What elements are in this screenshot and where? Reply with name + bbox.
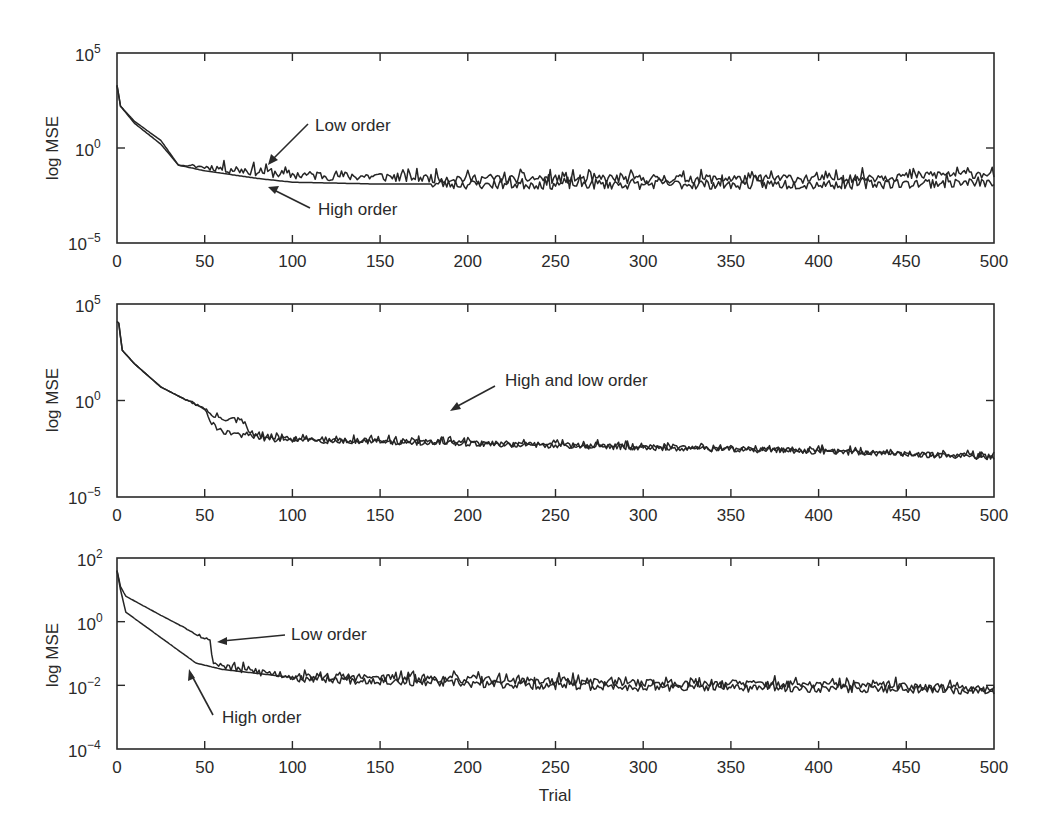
series-line-high-order (117, 321, 994, 459)
xtick-label: 450 (892, 506, 920, 525)
arrow-head-icon (450, 402, 461, 411)
panel-middle-series (117, 321, 994, 459)
arrow-low-order (270, 124, 308, 162)
xtick-label: 100 (278, 758, 306, 777)
series-line-low-order (117, 85, 994, 183)
xtick-label: 200 (454, 252, 482, 271)
panel-top: log MSE 105 100 10−5 0501001502002503003… (43, 42, 1008, 271)
annotation-high-order: High order (222, 708, 302, 727)
panel-middle-ylabel: log MSE (43, 368, 62, 432)
arrow-high-order (272, 189, 310, 208)
xtick-label: 250 (541, 758, 569, 777)
panel-middle-ytick-labels: 105 100 10−5 (68, 293, 101, 508)
series-line-low-order (117, 321, 994, 459)
figure: log MSE 105 100 10−5 0501001502002503003… (0, 0, 1052, 835)
panel-bottom: log MSE 102 100 10−2 10−4 05010015020025… (43, 547, 1008, 805)
xtick-label: 300 (629, 252, 657, 271)
annotation-high-and-low-order: High and low order (505, 371, 648, 390)
panel-middle-xtick-labels: 050100150200250300350400450500 (112, 506, 1008, 525)
xtick-label: 200 (454, 758, 482, 777)
xtick-label: 100 (278, 252, 306, 271)
xtick-label: 500 (980, 758, 1008, 777)
xtick-label: 250 (541, 252, 569, 271)
xtick-label: 250 (541, 506, 569, 525)
panel-middle: log MSE 105 100 10−5 0501001502002503003… (43, 293, 1008, 525)
panel-top-ticks (117, 53, 994, 243)
ytick-label: 100 (77, 611, 103, 634)
panel-middle-ticks (117, 304, 994, 497)
panel-top-frame (117, 53, 994, 243)
panel-top-xtick-labels: 050100150200250300350400450500 (112, 252, 1008, 271)
xtick-label: 300 (629, 506, 657, 525)
xtick-label: 0 (112, 252, 121, 271)
xtick-label: 500 (980, 252, 1008, 271)
panel-bottom-series (117, 571, 994, 694)
xtick-label: 150 (366, 758, 394, 777)
ytick-label: 100 (75, 137, 101, 160)
xtick-label: 400 (804, 252, 832, 271)
xtick-label: 450 (892, 758, 920, 777)
xtick-label: 500 (980, 506, 1008, 525)
ytick-label: 10−4 (68, 738, 101, 761)
xtick-label: 350 (717, 506, 745, 525)
panel-bottom-xlabel: Trial (539, 786, 571, 805)
xtick-label: 150 (366, 252, 394, 271)
xtick-label: 450 (892, 252, 920, 271)
xtick-label: 150 (366, 506, 394, 525)
panel-top-ytick-labels: 105 100 10−5 (68, 42, 101, 254)
annotation-high-order: High order (318, 200, 398, 219)
xtick-label: 100 (278, 506, 306, 525)
annotation-low-order: Low order (315, 116, 391, 135)
xtick-label: 200 (454, 506, 482, 525)
xtick-label: 50 (195, 252, 214, 271)
xtick-label: 50 (195, 506, 214, 525)
xtick-label: 350 (717, 252, 745, 271)
ytick-label: 105 (75, 293, 101, 316)
xtick-label: 0 (112, 506, 121, 525)
ytick-label: 10−5 (68, 231, 101, 254)
panel-bottom-xtick-labels: 050100150200250300350400450500 (112, 758, 1008, 777)
xtick-label: 50 (195, 758, 214, 777)
panel-top-series (117, 85, 994, 189)
ytick-label: 105 (75, 42, 101, 65)
arrow-head-icon (217, 637, 227, 645)
arrow-high-order (191, 674, 213, 715)
panel-bottom-ytick-labels: 102 100 10−2 10−4 (68, 547, 103, 761)
panel-bottom-ylabel: log MSE (43, 623, 62, 687)
ytick-label: 100 (75, 389, 101, 412)
xtick-label: 400 (804, 758, 832, 777)
arrow-low-order (222, 635, 285, 641)
ytick-label: 10−2 (68, 675, 101, 698)
arrow-high-and-low-order (454, 386, 495, 408)
xtick-label: 350 (717, 758, 745, 777)
panel-top-ylabel: log MSE (43, 116, 62, 180)
arrow-head-icon (268, 186, 279, 194)
xtick-label: 400 (804, 506, 832, 525)
series-line-low-order (117, 571, 994, 692)
xtick-label: 300 (629, 758, 657, 777)
ytick-label: 102 (77, 547, 103, 570)
annotation-low-order: Low order (291, 625, 367, 644)
ytick-label: 10−5 (68, 485, 101, 508)
series-line-high-order (117, 571, 994, 694)
xtick-label: 0 (112, 758, 121, 777)
panel-middle-frame (117, 304, 994, 497)
